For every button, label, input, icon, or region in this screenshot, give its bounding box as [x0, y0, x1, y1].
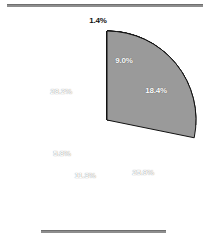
pie-slice-group — [107, 31, 196, 138]
pie-plot-area: 1.4%9.0%18.4%25.9%11.3%5.8%28.2% — [0, 0, 210, 236]
pie-chart-figure: 1.4%9.0%18.4%25.9%11.3%5.8%28.2% — [0, 0, 210, 236]
pie-slice — [107, 31, 196, 138]
bottom-divider — [41, 230, 166, 233]
pie-svg — [0, 0, 210, 236]
